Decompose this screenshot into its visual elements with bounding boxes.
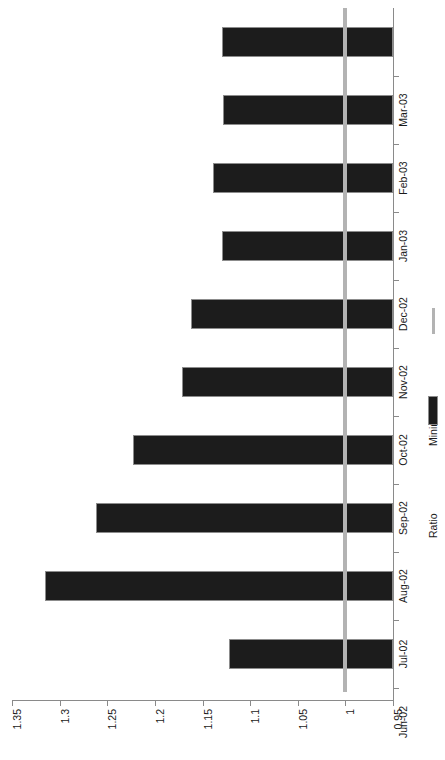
value-label-1.3: 1.3	[59, 709, 72, 755]
bar-row	[12, 484, 393, 552]
bar-nov-02	[191, 299, 393, 329]
ratio-vs-minimum-bar-chart: Jun-02Jul-02Aug-02Sep-02Oct-02Nov-02Dec-…	[0, 0, 445, 760]
bar-row	[12, 620, 393, 688]
value-tick	[298, 700, 299, 706]
legend-line-icon	[432, 308, 435, 334]
legend-item-ratio: Ratio	[424, 386, 444, 480]
value-tick	[155, 700, 156, 706]
bar-row	[12, 280, 393, 348]
bar-jul-02	[45, 571, 393, 601]
bar-aug-02	[96, 503, 393, 533]
bar-row	[12, 76, 393, 144]
bar-mar-03	[222, 27, 393, 57]
value-tick	[203, 700, 204, 706]
chart-legend: Minimum Ratio	[424, 300, 444, 480]
bar-sep-02	[133, 435, 393, 465]
bar-feb-03	[223, 95, 393, 125]
plot-area	[12, 8, 393, 692]
category-label-jul-02: Jul-02	[396, 620, 410, 688]
category-label-aug-02: Aug-02	[396, 552, 410, 620]
legend-label-ratio: Ratio	[426, 474, 440, 538]
value-label-1.05: 1.05	[297, 709, 310, 755]
category-label-jan-03: Jan-03	[396, 212, 410, 280]
category-label-dec-02: Dec-02	[396, 280, 410, 348]
bar-jan-03	[213, 163, 393, 193]
legend-item-minimum: Minimum	[424, 300, 444, 386]
category-label-oct-02: Oct-02	[396, 416, 410, 484]
category-label-mar-03: Mar-03	[396, 76, 410, 144]
category-axis-line	[393, 8, 394, 700]
bar-jun-02	[229, 639, 393, 669]
bar-row	[12, 552, 393, 620]
value-tick	[12, 700, 13, 706]
bar-oct-02	[182, 367, 393, 397]
bar-row	[12, 212, 393, 280]
category-label-sep-02: Sep-02	[396, 484, 410, 552]
category-label-nov-02: Nov-02	[396, 348, 410, 416]
bar-row	[12, 8, 393, 76]
value-tick	[345, 700, 346, 706]
bar-row	[12, 348, 393, 416]
value-label-1: 1	[344, 709, 357, 755]
value-tick	[107, 700, 108, 706]
value-label-1.15: 1.15	[202, 709, 215, 755]
bar-dec-02	[222, 231, 393, 261]
value-label-0.95: 0.95	[392, 709, 405, 755]
value-label-1.2: 1.2	[154, 709, 167, 755]
value-tick	[250, 700, 251, 706]
legend-swatch-icon	[428, 396, 438, 425]
bar-row	[12, 144, 393, 212]
value-label-1.35: 1.35	[11, 709, 24, 755]
value-tick	[60, 700, 61, 706]
value-tick	[393, 700, 394, 706]
bar-row	[12, 416, 393, 484]
category-label-feb-03: Feb-03	[396, 144, 410, 212]
minimum-reference-line	[343, 8, 347, 692]
value-label-1.25: 1.25	[106, 709, 119, 755]
value-label-1.1: 1.1	[249, 709, 262, 755]
